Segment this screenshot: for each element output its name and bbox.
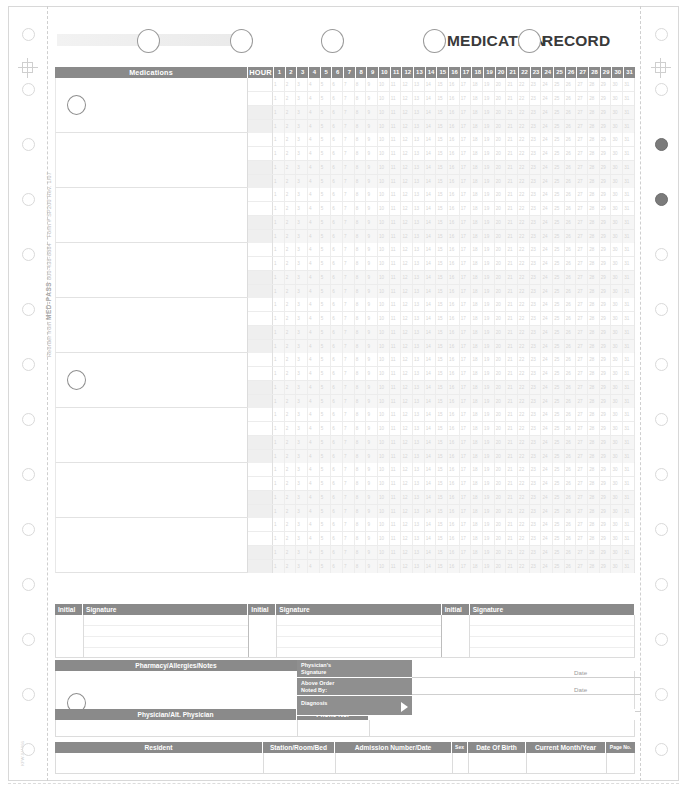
day-cell-b2-r1-d8[interactable]: 8 xyxy=(355,133,367,146)
day-cell-b7-r4-d27[interactable]: 27 xyxy=(576,450,588,463)
day-cell-b9-r2-d27[interactable]: 27 xyxy=(576,532,588,545)
day-cell-b7-r2-d4[interactable]: 4 xyxy=(308,422,320,435)
day-cell-b2-r4-d2[interactable]: 2 xyxy=(285,175,297,188)
day-cell-b2-r3-d3[interactable]: 3 xyxy=(296,161,308,174)
day-cell-b1-r3-d20[interactable]: 20 xyxy=(495,106,507,119)
day-cell-b5-r3-d21[interactable]: 21 xyxy=(506,326,518,339)
day-cell-b3-r2-d7[interactable]: 7 xyxy=(343,202,355,215)
day-cell-b1-r1-d25[interactable]: 25 xyxy=(553,78,565,91)
day-cell-b6-r4-d27[interactable]: 27 xyxy=(576,395,588,408)
day-cell-b7-r1-d1[interactable]: 1 xyxy=(273,408,285,421)
signature-col3-initial-field[interactable] xyxy=(442,615,470,657)
day-cell-b5-r2-d5[interactable]: 5 xyxy=(320,312,332,325)
day-cell-b8-r2-d25[interactable]: 25 xyxy=(553,477,565,490)
day-cell-b6-r3-d22[interactable]: 22 xyxy=(518,381,530,394)
day-cell-b8-r1-d11[interactable]: 11 xyxy=(390,463,402,476)
hour-cell-b9-r4[interactable] xyxy=(248,560,273,573)
day-cell-b2-r1-d11[interactable]: 11 xyxy=(390,133,402,146)
day-cell-b7-r3-d9[interactable]: 9 xyxy=(366,436,378,449)
day-cell-b3-r3-d31[interactable]: 31 xyxy=(623,216,634,229)
day-cell-b7-r1-d9[interactable]: 9 xyxy=(366,408,378,421)
day-cell-b9-r3-d19[interactable]: 19 xyxy=(483,546,495,559)
day-cell-b6-r2-d24[interactable]: 24 xyxy=(541,367,553,380)
hour-cell-b5-r2[interactable] xyxy=(248,312,273,325)
day-cell-b4-r3-d1[interactable]: 1 xyxy=(273,271,285,284)
day-cell-b6-r1-d12[interactable]: 12 xyxy=(401,353,413,366)
day-cell-b1-r1-d26[interactable]: 26 xyxy=(565,78,577,91)
day-cell-b1-r4-d6[interactable]: 6 xyxy=(331,120,343,133)
day-cell-b2-r4-d25[interactable]: 25 xyxy=(553,175,565,188)
day-cell-b1-r3-d12[interactable]: 12 xyxy=(401,106,413,119)
day-cell-b7-r3-d19[interactable]: 19 xyxy=(483,436,495,449)
day-cell-b6-r1-d4[interactable]: 4 xyxy=(308,353,320,366)
day-cell-b6-r1-d21[interactable]: 21 xyxy=(506,353,518,366)
day-cell-b3-r3-d9[interactable]: 9 xyxy=(366,216,378,229)
day-cell-b2-r3-d22[interactable]: 22 xyxy=(518,161,530,174)
day-cell-b7-r3-d15[interactable]: 15 xyxy=(436,436,448,449)
day-cell-b7-r2-d17[interactable]: 17 xyxy=(460,422,472,435)
day-cell-b9-r3-d5[interactable]: 5 xyxy=(320,546,332,559)
day-cell-b2-r4-d18[interactable]: 18 xyxy=(471,175,483,188)
day-cell-b2-r2-d23[interactable]: 23 xyxy=(530,147,542,160)
day-cell-b7-r1-d12[interactable]: 12 xyxy=(401,408,413,421)
day-cell-b1-r2-d1[interactable]: 1 xyxy=(273,92,285,105)
day-cell-b7-r1-d14[interactable]: 14 xyxy=(425,408,437,421)
day-cell-b6-r1-d30[interactable]: 30 xyxy=(611,353,623,366)
day-cell-b9-r1-d15[interactable]: 15 xyxy=(436,518,448,531)
day-cell-b4-r3-d24[interactable]: 24 xyxy=(541,271,553,284)
day-cell-b7-r1-d24[interactable]: 24 xyxy=(541,408,553,421)
day-cell-b3-r3-d26[interactable]: 26 xyxy=(565,216,577,229)
day-cell-b1-r1-d23[interactable]: 23 xyxy=(530,78,542,91)
day-cell-b9-r4-d23[interactable]: 23 xyxy=(530,560,542,573)
day-cell-b4-r2-d12[interactable]: 12 xyxy=(401,257,413,270)
day-cell-b1-r2-d19[interactable]: 19 xyxy=(483,92,495,105)
day-cell-b4-r3-d21[interactable]: 21 xyxy=(506,271,518,284)
day-cell-b5-r2-d12[interactable]: 12 xyxy=(401,312,413,325)
day-cell-b2-r3-d13[interactable]: 13 xyxy=(413,161,425,174)
day-cell-b8-r4-d2[interactable]: 2 xyxy=(285,505,297,518)
day-cell-b4-r2-d11[interactable]: 11 xyxy=(390,257,402,270)
day-cell-b2-r1-d9[interactable]: 9 xyxy=(366,133,378,146)
day-cell-b8-r3-d22[interactable]: 22 xyxy=(518,491,530,504)
day-cell-b3-r2-d29[interactable]: 29 xyxy=(600,202,612,215)
day-cell-b5-r1-d26[interactable]: 26 xyxy=(565,298,577,311)
day-cell-b3-r4-d28[interactable]: 28 xyxy=(588,230,600,243)
day-cell-b7-r3-d6[interactable]: 6 xyxy=(331,436,343,449)
hour-cell-b3-r4[interactable] xyxy=(248,230,273,243)
day-cell-b8-r2-d11[interactable]: 11 xyxy=(390,477,402,490)
day-cell-b3-r4-d11[interactable]: 11 xyxy=(390,230,402,243)
day-cell-b1-r3-d17[interactable]: 17 xyxy=(460,106,472,119)
day-cell-b3-r1-d28[interactable]: 28 xyxy=(588,188,600,201)
day-cell-b3-r2-d25[interactable]: 25 xyxy=(553,202,565,215)
day-cell-b4-r4-d1[interactable]: 1 xyxy=(273,285,285,298)
day-cell-b4-r2-d1[interactable]: 1 xyxy=(273,257,285,270)
day-cell-b2-r1-d23[interactable]: 23 xyxy=(530,133,542,146)
day-cell-b8-r3-d29[interactable]: 29 xyxy=(600,491,612,504)
day-cell-b3-r1-d18[interactable]: 18 xyxy=(471,188,483,201)
day-cell-b8-r4-d15[interactable]: 15 xyxy=(436,505,448,518)
day-cell-b3-r3-d5[interactable]: 5 xyxy=(320,216,332,229)
day-cell-b2-r2-d27[interactable]: 27 xyxy=(576,147,588,160)
day-cell-b3-r4-d19[interactable]: 19 xyxy=(483,230,495,243)
day-cell-b1-r4-d17[interactable]: 17 xyxy=(460,120,472,133)
day-cell-b5-r3-d9[interactable]: 9 xyxy=(366,326,378,339)
day-cell-b6-r3-d19[interactable]: 19 xyxy=(483,381,495,394)
medication-name-field-7[interactable] xyxy=(56,408,248,462)
day-cell-b8-r3-d3[interactable]: 3 xyxy=(296,491,308,504)
day-cell-b2-r2-d1[interactable]: 1 xyxy=(273,147,285,160)
day-cell-b3-r1-d4[interactable]: 4 xyxy=(308,188,320,201)
day-cell-b6-r4-d6[interactable]: 6 xyxy=(331,395,343,408)
day-cell-b5-r3-d7[interactable]: 7 xyxy=(343,326,355,339)
day-cell-b6-r3-d6[interactable]: 6 xyxy=(331,381,343,394)
day-cell-b4-r1-d13[interactable]: 13 xyxy=(413,243,425,256)
day-cell-b1-r3-d1[interactable]: 1 xyxy=(273,106,285,119)
day-cell-b2-r4-d23[interactable]: 23 xyxy=(530,175,542,188)
medication-name-field-8[interactable] xyxy=(56,463,248,517)
day-cell-b3-r3-d22[interactable]: 22 xyxy=(518,216,530,229)
day-cell-b1-r1-d28[interactable]: 28 xyxy=(588,78,600,91)
day-cell-b8-r4-d19[interactable]: 19 xyxy=(483,505,495,518)
day-cell-b8-r2-d29[interactable]: 29 xyxy=(600,477,612,490)
day-cell-b2-r2-d19[interactable]: 19 xyxy=(483,147,495,160)
day-cell-b1-r4-d21[interactable]: 21 xyxy=(506,120,518,133)
day-cell-b5-r4-d15[interactable]: 15 xyxy=(436,340,448,353)
